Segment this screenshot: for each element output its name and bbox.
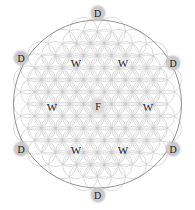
node-label-d-bottom: D bbox=[91, 189, 104, 202]
node-label-d-lower-right: D bbox=[167, 143, 180, 156]
node-label-w-upper-left: W bbox=[71, 58, 81, 69]
node-label-w-lower-right: W bbox=[118, 145, 128, 156]
node-label-d-upper-right: D bbox=[167, 57, 180, 70]
node-label-f-center: F bbox=[92, 100, 105, 113]
node-label-w-lower-left: W bbox=[71, 145, 81, 156]
node-label-w-upper-right: W bbox=[118, 58, 128, 69]
node-label-d-upper-left: D bbox=[15, 52, 28, 65]
node-label-d-top: D bbox=[91, 7, 104, 20]
node-label-w-mid-left: W bbox=[47, 102, 57, 113]
flower-of-life-diagram: DDDDDDWWWWWWF bbox=[0, 0, 195, 210]
node-label-w-mid-right: W bbox=[143, 102, 153, 113]
node-label-d-lower-left: D bbox=[15, 143, 28, 156]
